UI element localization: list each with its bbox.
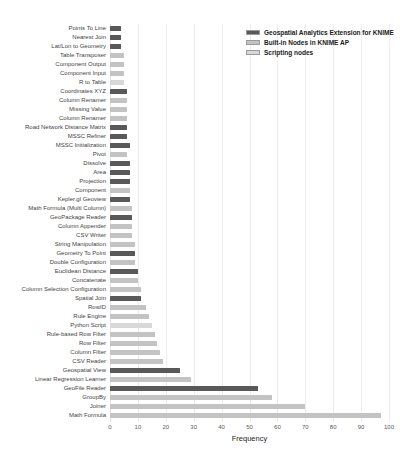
category-label: Rule Engine [0,312,110,321]
bar-track [110,132,389,141]
legend-item: Built-in Nodes in KNIME AP [246,37,394,47]
bar-builtin [110,341,157,346]
bar-row: Math Formula (Multi Column) [0,204,389,213]
bar-builtin [110,404,305,409]
legend-item: Scripting nodes [246,47,394,57]
bar-track [110,303,389,312]
bar-row: Column Renamer [0,114,389,123]
bar-builtin [110,188,130,193]
bar-row: Projection [0,177,389,186]
category-label: Pivot [0,150,110,159]
category-label: Missing Value [0,105,110,114]
bar-geospatial [110,44,121,49]
bar-row: GroupBy [0,393,389,402]
category-label: GroupBy [0,393,110,402]
bar-row: RowID [0,303,389,312]
bar-builtin [110,107,127,112]
category-label: Column Appender [0,222,110,231]
bar-track [110,294,389,303]
bar-builtin [110,53,124,58]
bar-row: Geospatial View [0,366,389,375]
bar-row: Spatial Join [0,294,389,303]
bar-row: Column Renamer [0,96,389,105]
bar-geospatial [110,368,180,373]
bar-geospatial [110,170,130,175]
bar-track [110,60,389,69]
x-tick-label-100: 100 [384,424,394,430]
bar-geospatial [110,35,121,40]
bar-row: Python Script [0,321,389,330]
category-label: GeoFile Reader [0,384,110,393]
bar-track [110,69,389,78]
category-label: Column Selection Configuration [0,285,110,294]
bar-track [110,312,389,321]
category-label: Math Formula [0,411,110,420]
category-label: Spatial Join [0,294,110,303]
bar-geospatial [110,125,127,130]
bar-track [110,321,389,330]
bar-track [110,339,389,348]
x-tick-label-90: 90 [358,424,365,430]
bar-track [110,393,389,402]
bar-row: Concatenate [0,276,389,285]
bar-builtin [110,377,191,382]
category-label: Kepler.gl Geoview [0,195,110,204]
bar-row: GeoFile Reader [0,384,389,393]
bar-track [110,204,389,213]
bar-track [110,96,389,105]
bar-row: Area [0,168,389,177]
legend-label: Geospatial Analytics Extension for KNIME [264,29,394,36]
bar-builtin [110,395,272,400]
category-label: Math Formula (Multi Column) [0,204,110,213]
bar-row: Kepler.gl Geoview [0,195,389,204]
bar-track [110,240,389,249]
category-label: Python Script [0,321,110,330]
x-tick-label-10: 10 [135,424,142,430]
bar-geospatial [110,251,135,256]
bar-builtin [110,233,132,238]
bar-track [110,258,389,267]
category-label: GeoPackage Reader [0,213,110,222]
legend-item: Geospatial Analytics Extension for KNIME [246,27,394,37]
category-label: Projection [0,177,110,186]
bar-builtin [110,350,160,355]
category-label: Area [0,168,110,177]
bar-track [110,402,389,411]
bar-geospatial [110,386,258,391]
bar-track [110,150,389,159]
x-tick-label-20: 20 [162,424,169,430]
bar-row: MSSC Initialization [0,141,389,150]
bar-scripting [110,323,152,328]
bar-builtin [110,314,149,319]
bar-track [110,114,389,123]
bar-track [110,195,389,204]
bar-row: Road Network Distance Matrix [0,123,389,132]
bar-builtin [110,98,127,103]
bar-row: CSV Reader [0,357,389,366]
bar-row: Coordinates XYZ [0,87,389,96]
bar-track [110,384,389,393]
category-label: Component Input [0,69,110,78]
bar-track [110,87,389,96]
bar-builtin [110,62,124,67]
x-tick-label-0: 0 [108,424,111,430]
category-label: Coordinates XYZ [0,87,110,96]
bar-builtin [110,287,141,292]
category-label: Row Filter [0,339,110,348]
legend-label: Scripting nodes [264,49,313,56]
bar-builtin [110,206,132,211]
bar-row: Pivot [0,150,389,159]
bar-geospatial [110,215,132,220]
bar-row: Component Input [0,69,389,78]
category-label: Rule-based Row Filter [0,330,110,339]
bar-row: Missing Value [0,105,389,114]
x-tick-label-30: 30 [190,424,197,430]
bar-track [110,366,389,375]
bar-row: CSV Writer [0,231,389,240]
category-label: RowID [0,303,110,312]
bar-chart-figure: Points To LineNearest JoinLat/Lon to Geo… [0,0,411,462]
bar-row: Geometry To Point [0,249,389,258]
legend-label: Built-in Nodes in KNIME AP [264,39,349,46]
category-label: Joiner [0,402,110,411]
legend-swatch-builtin [246,40,260,45]
